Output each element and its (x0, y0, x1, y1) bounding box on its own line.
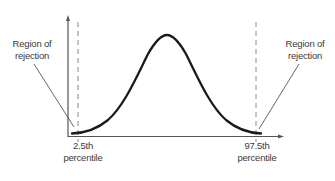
right-region-label-line2: rejection (275, 50, 335, 62)
right-cutoff-label-line1: 97.5th (230, 140, 284, 152)
left-cutoff-label: 2.5th percentile (58, 140, 108, 163)
left-region-label-line2: rejection (2, 50, 62, 62)
left-region-label-line1: Region of (2, 38, 62, 50)
left-cutoff-label-line1: 2.5th (58, 140, 108, 152)
right-cutoff-label: 97.5th percentile (230, 140, 284, 163)
right-region-label-line1: Region of (275, 38, 335, 50)
y-axis-arrow-icon (66, 15, 70, 21)
right-pointer-line (259, 64, 299, 129)
normal-curve (72, 35, 261, 134)
right-region-label: Region of rejection (275, 38, 335, 61)
left-cutoff-label-line2: percentile (58, 152, 108, 164)
x-axis-arrow-icon (278, 135, 284, 139)
left-region-label: Region of rejection (2, 38, 62, 61)
diagram-canvas (0, 0, 335, 181)
right-cutoff-label-line2: percentile (230, 152, 284, 164)
